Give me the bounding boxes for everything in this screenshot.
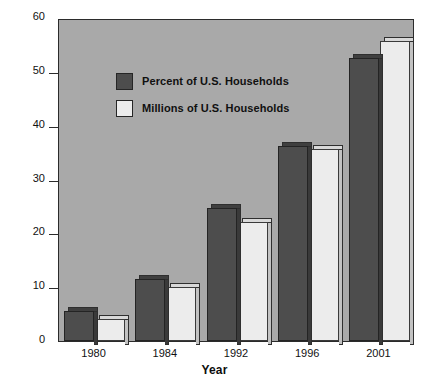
plot-area: Percent of U.S. Households Millions of U… xyxy=(58,19,414,342)
legend-label-millions: Millions of U.S. Households xyxy=(142,102,290,114)
x-axis-tick-label: 1996 xyxy=(295,347,319,359)
bar-side-face xyxy=(237,208,241,345)
y-axis-tick-label: 60 xyxy=(33,11,45,22)
bar-group xyxy=(349,20,410,341)
y-axis-tick-mark xyxy=(49,234,58,235)
bar-group xyxy=(278,20,339,341)
x-axis-tick-label: 1992 xyxy=(224,347,248,359)
bar-side-face xyxy=(410,41,414,345)
y-axis: 0102030405060 xyxy=(0,0,58,383)
y-axis-tick-label: 0 xyxy=(39,334,45,345)
bar xyxy=(238,222,268,342)
y-axis-tick-label: 10 xyxy=(33,280,45,291)
x-axis: 19801984199219962001 xyxy=(58,344,414,362)
legend-swatch-percent xyxy=(116,73,133,90)
legend-label-percent: Percent of U.S. Households xyxy=(142,75,289,87)
bar-side-face xyxy=(165,279,169,345)
chart-legend: Percent of U.S. Households Millions of U… xyxy=(116,70,290,124)
bar-side-face xyxy=(268,222,272,346)
bar-side-face xyxy=(379,58,383,345)
y-axis-tick-label: 50 xyxy=(33,65,45,76)
bar-side-face xyxy=(196,287,200,345)
bar-body xyxy=(95,319,125,341)
legend-swatch-millions xyxy=(116,100,133,117)
bar xyxy=(166,287,196,341)
bar-group xyxy=(135,20,196,341)
bar-body xyxy=(278,146,308,341)
x-axis-tick-label: 2001 xyxy=(366,347,390,359)
y-axis-tick-mark xyxy=(49,127,58,128)
bar-side-face xyxy=(94,311,98,345)
y-axis-tick-mark xyxy=(49,288,58,289)
bar-group xyxy=(207,20,268,341)
bar-body xyxy=(349,58,379,341)
bar xyxy=(309,149,339,341)
bar-chart: 0102030405060 Percent of U.S. Households… xyxy=(0,0,429,383)
legend-item: Percent of U.S. Households xyxy=(116,70,290,92)
bar-body xyxy=(309,149,339,341)
x-axis-tick-label: 1984 xyxy=(153,347,177,359)
y-axis-tick-label: 20 xyxy=(33,226,45,237)
bar xyxy=(135,279,165,341)
bar-body xyxy=(166,287,196,341)
bar xyxy=(380,41,410,341)
bar xyxy=(95,319,125,341)
y-axis-tick-mark xyxy=(49,181,58,182)
bar-body xyxy=(380,41,410,341)
y-axis-tick-mark xyxy=(49,73,58,74)
bar-body xyxy=(238,222,268,342)
bar xyxy=(207,208,237,341)
x-axis-tick-label: 1980 xyxy=(81,347,105,359)
bar-body xyxy=(207,208,237,341)
bar xyxy=(349,58,379,341)
bar-side-face xyxy=(308,146,312,345)
x-axis-title: Year xyxy=(0,363,429,377)
y-axis-tick-label: 30 xyxy=(33,173,45,184)
bar-group xyxy=(64,20,125,341)
bar-body xyxy=(135,279,165,341)
bar xyxy=(64,311,94,341)
legend-item: Millions of U.S. Households xyxy=(116,97,290,119)
bar-side-face xyxy=(125,319,129,345)
bar xyxy=(278,146,308,341)
bar-side-face xyxy=(339,149,343,345)
y-axis-tick-label: 40 xyxy=(33,119,45,130)
bar-body xyxy=(64,311,94,341)
